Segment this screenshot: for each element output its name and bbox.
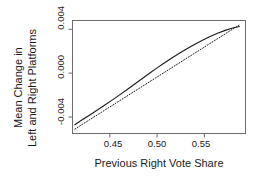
x-axis-ticks [110, 134, 205, 138]
chart-figure: Mean Change in Left and Right Platforms … [0, 0, 257, 177]
plot-area [0, 0, 257, 177]
y-axis-ticks [69, 29, 73, 117]
series-fitted-curve [75, 27, 240, 125]
data-series-group [75, 25, 240, 129]
series-linear-reference [75, 25, 240, 129]
